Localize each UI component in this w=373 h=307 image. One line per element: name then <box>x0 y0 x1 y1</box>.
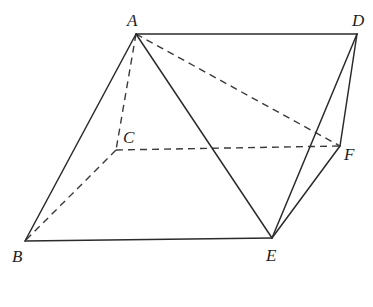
vertex-label-f: F <box>343 145 355 164</box>
solid-edge-be <box>25 238 272 241</box>
solid-edge-de <box>272 34 357 238</box>
vertex-label-e: E <box>265 246 277 265</box>
vertex-label-b: B <box>12 247 23 266</box>
dashed-edge-cf <box>116 146 340 150</box>
dashed-edge-af <box>136 34 340 146</box>
dashed-edge-cb <box>25 150 116 241</box>
vertex-label-d: D <box>351 11 365 30</box>
solid-edge-ab <box>25 34 136 241</box>
geometry-figure: A D C F B E <box>0 0 373 307</box>
vertex-labels: A D C F B E <box>12 11 365 266</box>
visible-edges <box>25 34 357 241</box>
solid-edge-fe <box>272 146 340 238</box>
solid-edge-ae <box>136 34 272 238</box>
vertex-label-a: A <box>126 11 138 30</box>
solid-edge-df <box>340 34 357 146</box>
vertex-label-c: C <box>123 128 135 147</box>
